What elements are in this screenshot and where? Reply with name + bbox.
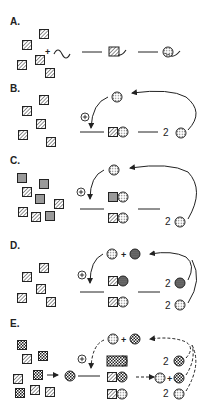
complex-hatch-checker (108, 372, 128, 382)
svg-text:+: + (121, 335, 126, 345)
complex-hatch-dotted (108, 389, 128, 399)
monomer-square (46, 69, 55, 78)
svg-text:+: + (45, 47, 50, 57)
panel-e: + + (14, 334, 196, 399)
panel-d: + (18, 249, 197, 310)
monomer-square (23, 41, 32, 50)
panel-b (19, 91, 197, 146)
template-strand (54, 50, 70, 58)
complex-dark (109, 276, 129, 286)
reaction-diagram: + (0, 0, 206, 415)
panel-c (18, 165, 197, 227)
product-circle (112, 92, 122, 102)
monomer-square (18, 61, 27, 70)
complex-square-strand (109, 47, 126, 56)
complex-hatched (109, 213, 129, 223)
activated-intermediate (65, 371, 75, 381)
panel-a: + (18, 30, 181, 78)
catalyst-plus-icon (81, 113, 89, 121)
complex-dotted (109, 297, 129, 307)
complex (109, 127, 129, 137)
monomer-square (36, 56, 45, 65)
folded-circle-strand (163, 47, 180, 57)
complex-checker (107, 356, 127, 366)
svg-text:+: + (121, 250, 126, 260)
complex-grey (109, 192, 129, 202)
svg-text:+: + (167, 374, 172, 384)
monomer-square (40, 30, 49, 39)
